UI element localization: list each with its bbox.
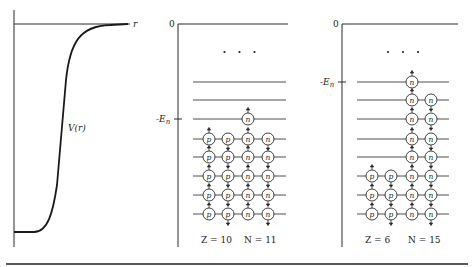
proton-spin-up: p bbox=[203, 146, 215, 164]
arrowhead-up-icon bbox=[410, 165, 413, 168]
neutron-label: n bbox=[429, 115, 434, 124]
proton-spin-down: p bbox=[385, 170, 397, 188]
neutron-spin-down: n bbox=[425, 133, 437, 151]
arrowhead-down-icon bbox=[266, 185, 269, 188]
neutron-spin-up: n bbox=[406, 184, 418, 202]
energy-level: ppnn bbox=[193, 146, 286, 169]
arrowhead-down-icon bbox=[266, 148, 269, 151]
arrowhead-up-icon bbox=[410, 146, 413, 149]
neutron-spin-down: n bbox=[262, 208, 274, 226]
arrowhead-up-icon bbox=[246, 146, 249, 149]
arrowhead-down-icon bbox=[429, 128, 432, 131]
zero-label: 0 bbox=[333, 19, 339, 29]
energy-level: nn bbox=[357, 89, 449, 112]
arrowhead-down-icon bbox=[226, 204, 229, 207]
neutron-label: n bbox=[410, 78, 415, 87]
potential-curve-label: V(r) bbox=[68, 123, 86, 133]
neutron-label: n bbox=[266, 153, 271, 162]
neutron-label: n bbox=[410, 115, 415, 124]
arrowhead-up-icon bbox=[370, 165, 373, 168]
energy-level: ppnn bbox=[357, 165, 449, 188]
proton-spin-up: p bbox=[203, 165, 215, 183]
arrowhead-down-icon bbox=[226, 185, 229, 188]
arrowhead-down-icon bbox=[389, 204, 392, 207]
arrowhead-down-icon bbox=[226, 223, 229, 226]
arrowhead-up-icon bbox=[370, 184, 373, 187]
neutron-spin-up: n bbox=[242, 146, 254, 164]
neutron-spin-down: n bbox=[262, 189, 274, 207]
neutron-label: n bbox=[246, 153, 251, 162]
arrowhead-down-icon bbox=[429, 166, 432, 169]
neutron-spin-down: n bbox=[425, 170, 437, 188]
proton-label: p bbox=[207, 135, 212, 144]
arrowhead-down-icon bbox=[429, 185, 432, 188]
neutron-spin-up: n bbox=[406, 128, 418, 146]
proton-spin-up: p bbox=[366, 203, 378, 221]
energy-level-panel-z10-n11: 0ppnnppnnppnnppnnppnnn-EnZ = 10N = 11 bbox=[156, 19, 288, 247]
neutron-spin-up: n bbox=[406, 203, 418, 221]
arrowhead-up-icon bbox=[246, 128, 249, 131]
neutron-count-caption: N = 15 bbox=[408, 235, 441, 245]
neutron-label: n bbox=[266, 135, 271, 144]
proton-label: p bbox=[370, 172, 375, 181]
r-axis-label: r bbox=[133, 19, 138, 29]
energy-level: ppnn bbox=[193, 203, 286, 226]
proton-label: p bbox=[389, 172, 394, 181]
arrowhead-up-icon bbox=[207, 184, 210, 187]
neutron-label: n bbox=[410, 135, 415, 144]
arrowhead-up-icon bbox=[410, 71, 413, 74]
potential-well-panel: r V(r) bbox=[14, 10, 138, 247]
neutron-label: n bbox=[410, 153, 415, 162]
arrowhead-up-icon bbox=[207, 165, 210, 168]
energy-level: ppnn bbox=[193, 128, 286, 151]
proton-label: p bbox=[226, 191, 231, 200]
proton-spin-down: p bbox=[222, 208, 234, 226]
neutron-spin-down: n bbox=[425, 151, 437, 169]
arrowhead-up-icon bbox=[246, 108, 249, 111]
proton-spin-down: p bbox=[222, 170, 234, 188]
energy-level: nn bbox=[357, 146, 449, 169]
fermi-subscript: n bbox=[166, 118, 171, 126]
arrowhead-up-icon bbox=[246, 203, 249, 206]
neutron-label: n bbox=[429, 172, 434, 181]
neutron-label: n bbox=[246, 191, 251, 200]
neutron-label: n bbox=[429, 153, 434, 162]
arrowhead-up-icon bbox=[410, 128, 413, 131]
neutron-label: n bbox=[246, 115, 251, 124]
neutron-label: n bbox=[246, 210, 251, 219]
neutron-label: n bbox=[410, 210, 415, 219]
arrowhead-down-icon bbox=[429, 204, 432, 207]
neutron-label: n bbox=[429, 191, 434, 200]
neutron-label: n bbox=[246, 172, 251, 181]
proton-spin-up: p bbox=[203, 203, 215, 221]
neutron-label: n bbox=[410, 96, 415, 105]
neutron-spin-down: n bbox=[425, 113, 437, 131]
zero-label: 0 bbox=[169, 19, 175, 29]
neutron-spin-down: n bbox=[262, 133, 274, 151]
proton-label: p bbox=[370, 191, 375, 200]
proton-spin-down: p bbox=[222, 151, 234, 169]
arrowhead-up-icon bbox=[207, 203, 210, 206]
energy-level: ppnn bbox=[357, 203, 449, 226]
neutron-spin-up: n bbox=[242, 184, 254, 202]
neutron-label: n bbox=[266, 210, 271, 219]
neutron-spin-down: n bbox=[425, 94, 437, 112]
neutron-label: n bbox=[266, 172, 271, 181]
neutron-spin-up: n bbox=[242, 128, 254, 146]
proton-label: p bbox=[226, 210, 231, 219]
proton-label: p bbox=[207, 153, 212, 162]
proton-spin-down: p bbox=[385, 208, 397, 226]
neutron-spin-up: n bbox=[406, 165, 418, 183]
arrowhead-down-icon bbox=[429, 148, 432, 151]
arrowhead-down-icon bbox=[389, 185, 392, 188]
neutron-spin-up: n bbox=[242, 165, 254, 183]
proton-spin-down: p bbox=[222, 189, 234, 207]
neutron-spin-up: n bbox=[406, 89, 418, 107]
arrowhead-up-icon bbox=[410, 203, 413, 206]
fermi-energy-label: -En bbox=[156, 114, 171, 126]
neutron-spin-up: n bbox=[242, 108, 254, 126]
arrowhead-down-icon bbox=[266, 223, 269, 226]
proton-label: p bbox=[207, 172, 212, 181]
arrowhead-down-icon bbox=[429, 109, 432, 112]
energy-level: ppnn bbox=[193, 184, 286, 207]
